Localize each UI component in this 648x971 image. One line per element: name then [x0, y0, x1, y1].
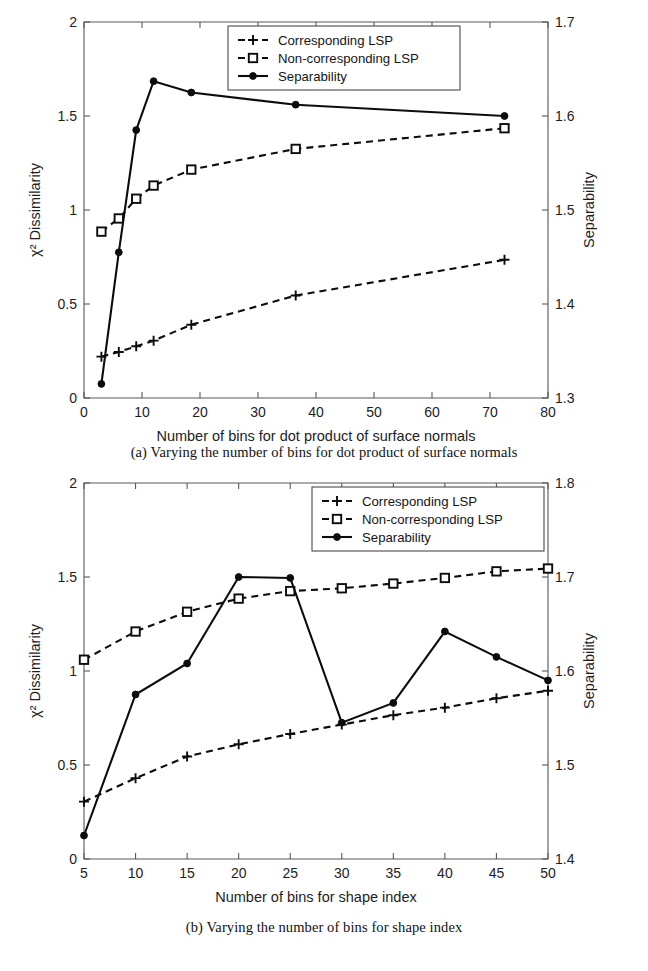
- legend-label: Separability: [362, 530, 431, 545]
- series-marker-2: [544, 564, 552, 572]
- series-marker-2: [183, 608, 191, 616]
- y-right-tick-label: 1.7: [555, 569, 575, 585]
- x-axis-title: Number of bins for shape index: [215, 889, 417, 905]
- series-line-2: [84, 569, 548, 660]
- series-marker-2: [131, 627, 139, 635]
- series-marker-1: [131, 773, 141, 783]
- series-marker-3: [184, 660, 191, 667]
- legend-sample-marker: [249, 54, 257, 62]
- x-tick-label: 80: [540, 404, 556, 420]
- series-line-1: [84, 691, 548, 802]
- series-marker-2: [492, 567, 500, 575]
- x-tick-label: 20: [231, 865, 247, 881]
- x-tick-label: 20: [192, 404, 208, 420]
- x-tick-label: 30: [250, 404, 266, 420]
- y-left-axis-title-text: χ² Dissimilarity: [27, 162, 43, 257]
- series-marker-1: [131, 341, 141, 351]
- x-tick-label: 50: [540, 865, 556, 881]
- legend-sample-marker: [334, 534, 341, 541]
- series-marker-3: [132, 691, 139, 698]
- y-left-tick-label: 2: [69, 475, 77, 491]
- series-marker-1: [285, 729, 295, 739]
- y-right-tick-label: 1.5: [555, 202, 575, 218]
- x-tick-label: 35: [386, 865, 402, 881]
- figure-page: 0102030405060708000.511.521.31.41.51.61.…: [0, 0, 648, 971]
- series-marker-2: [149, 181, 157, 189]
- series-marker-3: [81, 832, 88, 839]
- y-left-tick-label: 1.5: [58, 108, 78, 124]
- y-right-tick-label: 1.6: [555, 108, 575, 124]
- series-marker-2: [389, 579, 397, 587]
- series-marker-3: [150, 78, 157, 85]
- series-marker-1: [182, 752, 192, 762]
- series-marker-3: [338, 719, 345, 726]
- series-line-3: [101, 81, 504, 384]
- series-marker-1: [500, 255, 510, 265]
- caption-b: (b) Varying the number of bins for shape…: [0, 919, 648, 936]
- chart-a-canvas: 0102030405060708000.511.521.31.41.51.61.…: [0, 0, 648, 448]
- x-tick-label: 5: [80, 865, 88, 881]
- y-left-axis-title: χ² Dissimilarity: [27, 623, 43, 718]
- series-marker-3: [235, 574, 242, 581]
- series-marker-3: [98, 381, 105, 388]
- y-left-axis-title: χ² Dissimilarity: [27, 162, 43, 257]
- legend-label: Separability: [278, 69, 347, 84]
- series-marker-1: [491, 693, 501, 703]
- x-tick-label: 45: [489, 865, 505, 881]
- figure-panel-b: 510152025303540455000.511.521.41.51.61.7…: [0, 461, 648, 921]
- series-marker-2: [338, 584, 346, 592]
- figure-panel-a: 0102030405060708000.511.521.31.41.51.61.…: [0, 0, 648, 448]
- x-tick-label: 10: [128, 865, 144, 881]
- series-marker-1: [234, 739, 244, 749]
- y-left-tick-label: 0: [69, 851, 77, 867]
- series-line-1: [101, 260, 504, 357]
- series-marker-3: [292, 101, 299, 108]
- series-marker-3: [188, 89, 195, 96]
- x-tick-label: 10: [134, 404, 150, 420]
- legend-sample-marker: [333, 515, 341, 523]
- y-right-axis-title-text: Separability: [581, 171, 597, 248]
- y-right-axis-title: Separability: [581, 171, 597, 248]
- x-tick-label: 60: [424, 404, 440, 420]
- series-marker-2: [187, 165, 195, 173]
- chart-b-canvas: 510152025303540455000.511.521.41.51.61.7…: [0, 461, 648, 921]
- legend-label: Non-corresponding LSP: [278, 51, 419, 66]
- y-left-tick-label: 1: [69, 663, 77, 679]
- y-left-tick-label: 1: [69, 202, 77, 218]
- series-marker-3: [390, 700, 397, 707]
- series-line-3: [84, 577, 548, 836]
- x-tick-label: 25: [282, 865, 298, 881]
- series-marker-2: [441, 574, 449, 582]
- x-tick-label: 40: [437, 865, 453, 881]
- y-right-tick-label: 1.3: [555, 390, 575, 406]
- x-tick-label: 15: [179, 865, 195, 881]
- series-marker-1: [543, 686, 553, 696]
- y-right-tick-label: 1.8: [555, 475, 575, 491]
- x-axis-title: Number of bins for dot product of surfac…: [156, 428, 475, 444]
- series-marker-2: [500, 124, 508, 132]
- series-marker-1: [114, 347, 124, 357]
- x-tick-label: 30: [334, 865, 350, 881]
- legend-label: Non-corresponding LSP: [362, 512, 503, 527]
- series-marker-1: [79, 797, 89, 807]
- y-right-axis-title: Separability: [581, 632, 597, 709]
- y-right-tick-label: 1.4: [555, 296, 575, 312]
- series-marker-1: [388, 710, 398, 720]
- series-marker-2: [234, 594, 242, 602]
- y-left-tick-label: 2: [69, 14, 77, 30]
- y-right-axis-title-text: Separability: [581, 632, 597, 709]
- page-bottom-bleed-text: [0, 957, 648, 971]
- series-marker-2: [115, 214, 123, 222]
- series-marker-2: [292, 145, 300, 153]
- series-marker-1: [186, 320, 196, 330]
- series-marker-1: [440, 703, 450, 713]
- y-left-tick-label: 0.5: [58, 757, 78, 773]
- y-left-tick-label: 1.5: [58, 569, 78, 585]
- y-left-tick-label: 0: [69, 390, 77, 406]
- y-right-tick-label: 1.6: [555, 663, 575, 679]
- series-marker-2: [97, 227, 105, 235]
- x-tick-label: 40: [308, 404, 324, 420]
- legend-sample-marker: [250, 73, 257, 80]
- series-marker-3: [493, 654, 500, 661]
- y-right-tick-label: 1.5: [555, 757, 575, 773]
